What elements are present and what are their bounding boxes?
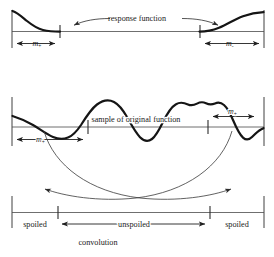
convolution-figure: response function m+ m- sample of origin…: [0, 0, 274, 257]
sample-signal-panel: sample of original function m+ m+: [12, 97, 264, 146]
unspoiled-label: unspoiled: [118, 220, 150, 229]
spoiled-right-label: spoiled: [225, 220, 249, 229]
response-label-leader-left: [74, 19, 110, 26]
connector-left-to-right: [44, 131, 231, 199]
spoiled-left-label: spoiled: [23, 220, 47, 229]
crossing-connectors: [44, 131, 232, 199]
middle-left-dimension-label: m+: [36, 135, 45, 145]
top-right-dimension-label: m-: [226, 39, 234, 49]
response-function-label: response function: [108, 14, 166, 23]
middle-right-dimension-label: m+: [228, 107, 237, 117]
convolution-caption: convolution: [78, 238, 117, 247]
convolution-result-panel: spoiled spoiled unspoiled convolution: [12, 196, 264, 247]
response-curve-left: [13, 11, 61, 32]
sample-function-label: sample of original function: [92, 115, 181, 124]
response-function-panel: response function m+ m-: [12, 10, 264, 49]
connector-right-to-left: [45, 131, 232, 199]
response-label-leader-right: [182, 19, 218, 26]
top-left-dimension-label: m+: [33, 39, 42, 49]
